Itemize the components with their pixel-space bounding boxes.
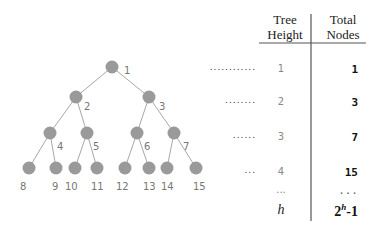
tree-node-1 xyxy=(106,61,119,74)
node-label-13: 13 xyxy=(143,182,156,192)
tree-node-5 xyxy=(81,127,94,140)
node-label-10: 10 xyxy=(65,182,78,192)
header-total-nodes: Total Nodes xyxy=(318,12,368,42)
height-cell-4: 4 xyxy=(266,167,296,177)
formula-suffix: -1 xyxy=(346,204,358,219)
header-tree-height: Tree Height xyxy=(260,12,310,42)
tree-node-11 xyxy=(91,162,104,175)
leader-dots-row-4: ... xyxy=(234,166,256,175)
height-cell-3: 3 xyxy=(266,132,296,142)
node-label-2: 2 xyxy=(84,102,90,112)
tree-node-8 xyxy=(23,162,36,175)
nodes-cell-general-formula: 2h-1 xyxy=(308,202,358,220)
header-tree-height-line2: Height xyxy=(260,27,310,42)
node-label-14: 14 xyxy=(161,182,174,192)
height-cell-2: 2 xyxy=(266,97,296,107)
node-label-9: 9 xyxy=(52,182,58,192)
tree-node-7 xyxy=(168,127,181,140)
node-label-8: 8 xyxy=(20,182,26,192)
height-cell-ellipsis: ... xyxy=(266,185,296,195)
nodes-cell-4: 15 xyxy=(318,167,358,178)
tree-node-14 xyxy=(161,162,174,175)
node-label-12: 12 xyxy=(116,182,129,192)
height-cell-general: h xyxy=(266,202,296,218)
tree-node-9 xyxy=(50,162,63,175)
node-label-7: 7 xyxy=(183,142,189,152)
node-label-1: 1 xyxy=(124,66,130,76)
leader-dots-row-1: ............ xyxy=(188,63,256,72)
tree-node-13 xyxy=(143,162,156,175)
node-label-15: 15 xyxy=(193,182,206,192)
height-cell-1: 1 xyxy=(266,64,296,74)
tree-node-12 xyxy=(119,162,132,175)
node-label-4: 4 xyxy=(57,142,63,152)
leader-dots-row-2: ........ xyxy=(208,96,256,105)
header-total-nodes-line2: Nodes xyxy=(318,27,368,42)
header-total-nodes-line1: Total xyxy=(318,12,368,27)
nodes-cell-ellipsis: ... xyxy=(318,185,358,196)
node-label-11: 11 xyxy=(91,182,104,192)
tree-node-10 xyxy=(69,162,82,175)
node-label-3: 3 xyxy=(159,102,165,112)
node-label-5: 5 xyxy=(93,142,99,152)
tree-node-6 xyxy=(131,127,144,140)
node-label-6: 6 xyxy=(144,142,150,152)
nodes-cell-1: 1 xyxy=(318,64,358,75)
tree-node-2 xyxy=(70,91,83,104)
leader-dots-row-3: ...... xyxy=(220,131,256,140)
tree-node-4 xyxy=(44,127,57,140)
header-tree-height-line1: Tree xyxy=(260,12,310,27)
tree-node-15 xyxy=(190,162,203,175)
tree-node-3 xyxy=(143,91,156,104)
nodes-cell-3: 7 xyxy=(318,132,358,143)
nodes-cell-2: 3 xyxy=(318,97,358,108)
